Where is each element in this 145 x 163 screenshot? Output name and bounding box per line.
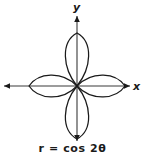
- x-axis-left-arrowhead-icon: [4, 83, 10, 89]
- polar-rose-figure: x y r = cos 2θ: [0, 0, 145, 163]
- rose-curve-plot: x y: [0, 0, 145, 163]
- equation-caption: r = cos 2θ: [0, 142, 145, 155]
- y-axis-up-arrowhead-icon: [74, 16, 80, 22]
- x-axis-label: x: [132, 80, 141, 93]
- y-axis-label: y: [73, 1, 81, 14]
